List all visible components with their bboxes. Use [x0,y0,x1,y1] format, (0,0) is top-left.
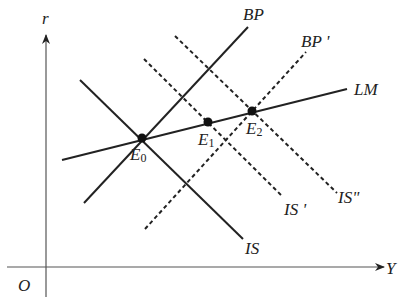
is-prime-label: IS ' [283,200,306,219]
point-e2 [248,107,257,116]
is-double-prime-label: IS" [337,188,360,207]
r-axis-label: r [42,9,49,28]
bp-curve [84,27,248,203]
e2-label: E2 [245,119,262,139]
bp-label: BP [243,5,264,24]
is-lm-bp-diagram: r Y O LM BP BP ' IS IS ' IS" E0 E1 E [0,0,402,300]
bp-prime-label: BP ' [301,32,330,51]
point-e1 [204,118,213,127]
e0-label: E0 [129,145,146,165]
e1-label: E1 [197,130,214,150]
is-curve [80,80,243,239]
is-label: IS [244,239,260,258]
diagram-canvas: r Y O LM BP BP ' IS IS ' IS" E0 E1 E [0,0,402,300]
y-axis-label: Y [386,259,397,278]
origin-label: O [18,276,30,295]
lm-label: LM [353,80,378,99]
point-e0 [138,134,147,143]
